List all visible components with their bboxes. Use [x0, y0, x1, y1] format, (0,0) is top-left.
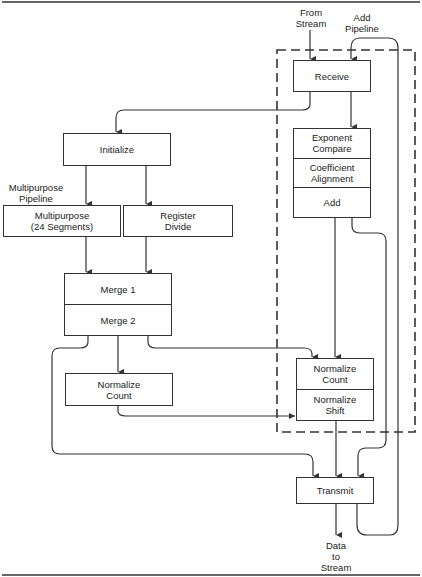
initialize-block: Initialize: [63, 133, 171, 166]
merge2-label: Merge 2: [65, 304, 171, 335]
normalize-count-left-label: Normalize Count: [66, 374, 172, 405]
register-divide-block: Register Divide: [123, 205, 233, 237]
multipurpose-pipeline-label: Multipurpose Pipeline: [4, 182, 68, 204]
exponent-compare-label: Exponent Compare: [294, 129, 370, 158]
add-stages-block: Exponent Compare Coefficient Alignment A…: [293, 128, 371, 218]
multipurpose-label: Multipurpose (24 Segments): [4, 206, 120, 236]
merge-block: Merge 1 Merge 2: [64, 273, 172, 336]
register-divide-label: Register Divide: [124, 206, 232, 236]
transmit-block: Transmit: [296, 477, 374, 504]
normalize-shift-label: Normalize Shift: [297, 389, 373, 420]
multipurpose-block: Multipurpose (24 Segments): [3, 205, 121, 237]
normalize-right-block: Normalize Count Normalize Shift: [296, 358, 374, 421]
transmit-label: Transmit: [297, 478, 373, 503]
from-stream-label: From Stream: [291, 7, 331, 29]
initialize-label: Initialize: [64, 134, 170, 165]
receive-label: Receive: [294, 61, 370, 91]
add-pipeline-label: Add Pipeline: [340, 12, 384, 34]
normalize-count-right-label: Normalize Count: [297, 359, 373, 389]
data-to-stream-label: Data to Stream: [316, 540, 356, 573]
add-label: Add: [294, 187, 370, 217]
normalize-count-left-block: Normalize Count: [65, 373, 173, 406]
coefficient-alignment-label: Coefficient Alignment: [294, 158, 370, 188]
receive-block: Receive: [293, 60, 371, 92]
merge1-label: Merge 1: [65, 274, 171, 304]
